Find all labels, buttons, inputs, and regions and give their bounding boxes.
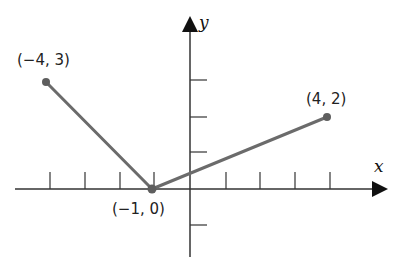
x-axis-label: x — [374, 156, 384, 176]
coordinate-plane: (−4, 3) (−1, 0) (4, 2) y x — [0, 0, 397, 275]
x-axis-arrow-icon — [372, 181, 388, 197]
point-c — [323, 113, 331, 121]
point-b-label: (−1, 0) — [112, 200, 165, 218]
y-axis-label: y — [198, 12, 209, 32]
y-ticks — [190, 80, 207, 225]
y-axis-arrow-icon — [182, 16, 198, 32]
point-b — [148, 185, 157, 194]
point-a-label: (−4, 3) — [17, 51, 70, 69]
point-a — [42, 78, 50, 86]
point-c-label: (4, 2) — [306, 90, 346, 108]
piecewise-line — [46, 82, 327, 189]
